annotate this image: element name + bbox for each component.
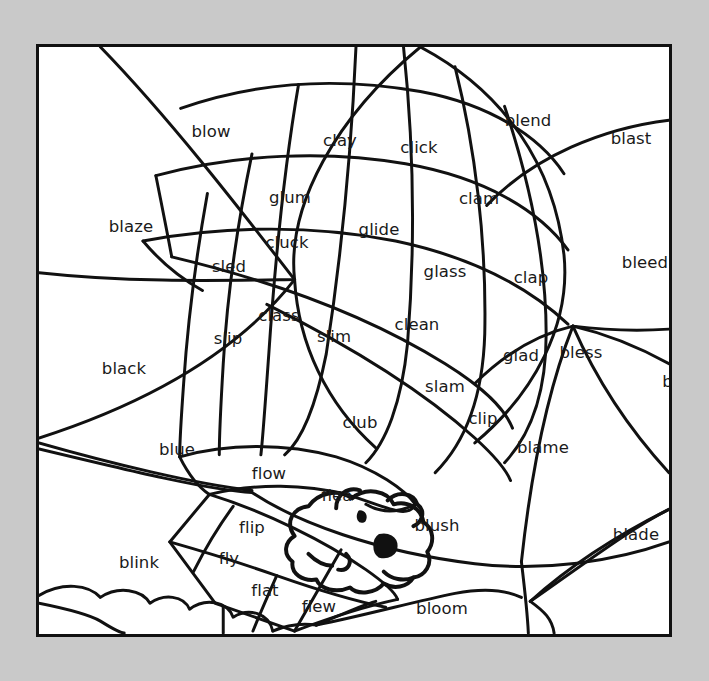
- balloon-gore-6: [219, 154, 252, 455]
- dog-leg-line: [308, 554, 332, 566]
- sky-line-bless-blame: [475, 326, 573, 383]
- sky-line-blame-blade: [521, 326, 573, 562]
- balloon-skirt-bottom: [209, 486, 415, 511]
- balloon-sash-diagonal: [172, 257, 513, 428]
- balloon-skirt-left: [180, 457, 210, 495]
- balloon-seam-band-3: [143, 229, 568, 324]
- balloon-line-art: [39, 47, 669, 634]
- balloon-gore-2: [366, 47, 412, 463]
- sky-line-black-blue: [39, 280, 295, 438]
- dog-nose: [375, 535, 395, 556]
- basket-weave-line-2: [194, 506, 234, 571]
- dog-eye: [359, 512, 365, 520]
- cloud-gloom-outline: [39, 586, 273, 631]
- sky-line-blank-blade: [573, 326, 669, 473]
- dog-paw-line: [384, 572, 414, 580]
- balloon-seam-sled-left: [156, 176, 172, 257]
- cloud-glue-divider: [39, 603, 124, 633]
- cloud-glow-outline: [316, 590, 521, 625]
- basket-outline-left: [170, 494, 295, 631]
- worksheet-frame: blow clay click blend blast glum clam bl…: [36, 44, 672, 637]
- sky-line-blush-bloom: [252, 492, 669, 566]
- sky-line-globe-left: [530, 601, 554, 633]
- sky-line-globe-top: [530, 509, 669, 601]
